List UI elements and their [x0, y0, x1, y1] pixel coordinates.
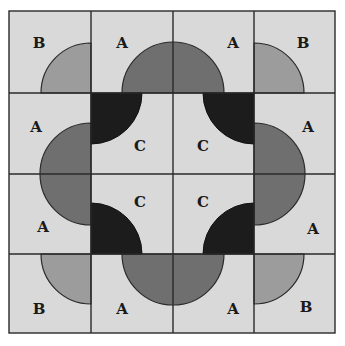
tile-label: B	[33, 34, 46, 52]
tile-label: C	[197, 137, 209, 155]
tile-label: B	[33, 300, 46, 318]
tile-label: A	[29, 118, 42, 136]
tile-label: C	[134, 137, 146, 155]
tile-label: B	[300, 298, 313, 316]
tile-label: A	[226, 34, 239, 52]
tile-label: A	[36, 218, 49, 236]
tile-label: C	[134, 193, 146, 211]
tile-label: B	[297, 34, 310, 52]
quilt-block-diagram: B A A B A C C A A C C A B A A B	[0, 0, 345, 346]
tile-label: A	[115, 300, 128, 318]
tile-label: A	[115, 34, 128, 52]
tile-label: A	[306, 220, 319, 238]
tile-label: C	[197, 193, 209, 211]
tile-label: A	[301, 118, 314, 136]
tile-label: A	[226, 300, 239, 318]
